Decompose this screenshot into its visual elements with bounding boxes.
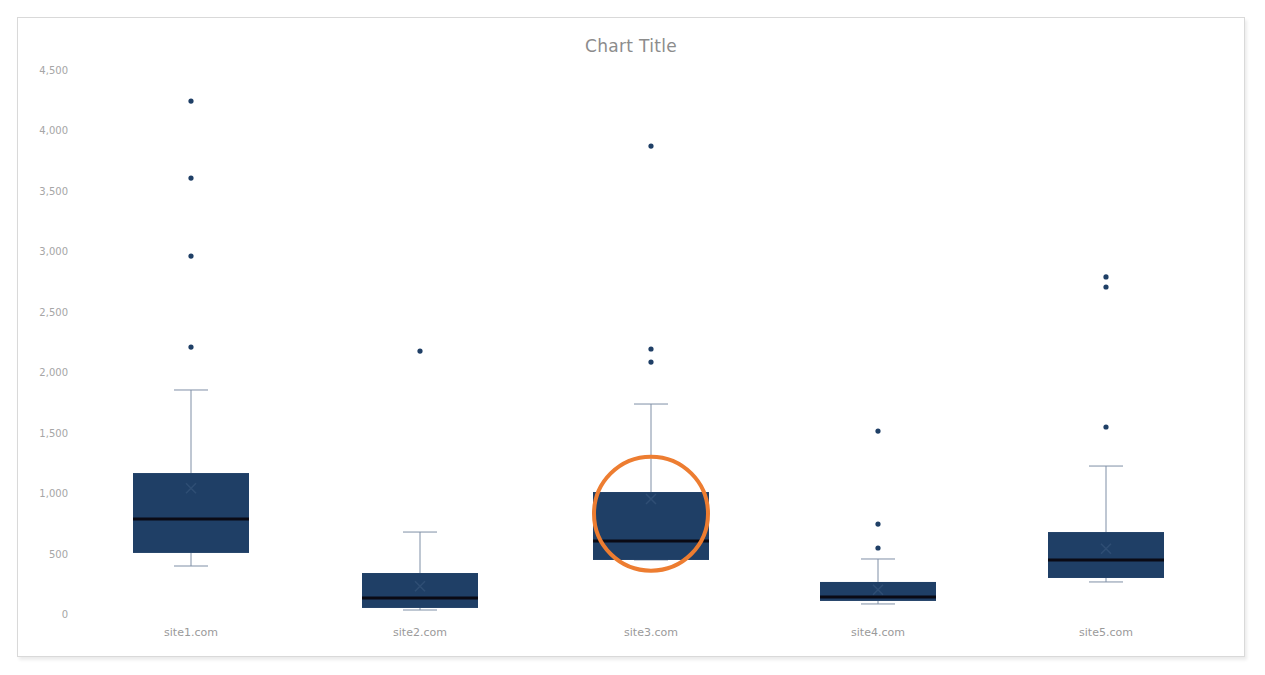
box-site3-com [593,143,709,560]
outlier-point [648,143,653,148]
y-tick-label: 2,500 [39,307,68,318]
outlier-point [188,175,193,180]
outlier-point [648,359,653,364]
iqr-box [362,573,478,608]
x-tick-label: site4.com [851,626,905,639]
y-tick-label: 2,000 [39,367,68,378]
box-series [133,98,1164,610]
outlier-point [875,521,880,526]
box-site2-com [362,348,478,610]
outlier-point [188,344,193,349]
x-tick-label: site2.com [393,626,447,639]
outlier-point [875,545,880,550]
outlier-point [1103,274,1108,279]
outlier-point [648,346,653,351]
y-tick-label: 4,000 [39,125,68,136]
box-site1-com [133,98,249,566]
iqr-box [133,473,249,553]
y-tick-label: 3,500 [39,186,68,197]
y-tick-label: 500 [49,549,68,560]
y-tick-label: 1,000 [39,488,68,499]
outlier-point [188,98,193,103]
x-axis: site1.comsite2.comsite3.comsite4.comsite… [164,626,1133,639]
x-tick-label: site1.com [164,626,218,639]
y-tick-label: 3,000 [39,246,68,257]
iqr-box [1048,532,1164,578]
outlier-point [875,428,880,433]
y-tick-label: 0 [62,609,68,620]
box-site5-com [1048,274,1164,582]
iqr-box [593,492,709,560]
box-plot: 05001,0001,5002,0002,5003,0003,5004,0004… [0,0,1265,675]
x-tick-label: site5.com [1079,626,1133,639]
outlier-point [1103,424,1108,429]
y-tick-label: 1,500 [39,428,68,439]
y-axis: 05001,0001,5002,0002,5003,0003,5004,0004… [39,65,68,620]
outlier-point [188,253,193,258]
outlier-point [417,348,422,353]
outlier-point [1103,284,1108,289]
y-tick-label: 4,500 [39,65,68,76]
x-tick-label: site3.com [624,626,678,639]
box-site4-com [820,428,936,603]
